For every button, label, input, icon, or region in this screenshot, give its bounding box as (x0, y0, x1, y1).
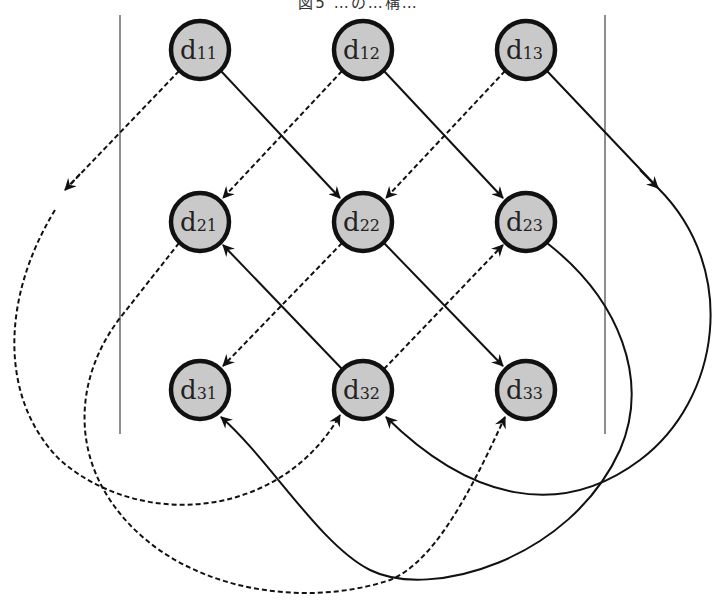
node-d22: d22 (334, 193, 392, 251)
node-d23: d23 (497, 193, 555, 251)
edge-d13-to-d32 (386, 71, 711, 495)
node-d13: d13 (497, 21, 555, 79)
edge-d23-to-d31 (221, 243, 632, 580)
edge-d32-to-d21 (223, 245, 342, 369)
edge-d11-to-d22 (221, 71, 340, 198)
edge-d21-to-d33 (85, 243, 505, 593)
network-diagram: d11d12d13d21d22d23d31d32d33 (0, 0, 717, 610)
node-d21: d21 (171, 193, 229, 251)
node-d31: d31 (171, 361, 229, 419)
node-d33: d33 (497, 361, 555, 419)
node-d32: d32 (334, 361, 392, 419)
edge-group (14, 71, 710, 593)
edge-d13-to-d22 (386, 71, 505, 198)
edge-d12-to-d21 (223, 71, 342, 198)
arrow-icon (640, 170, 658, 188)
arrow-icon (65, 174, 80, 190)
edge-d22-to-d31 (223, 243, 342, 366)
edge-d22-to-d33 (384, 243, 503, 366)
edge-d12-to-d23 (384, 71, 503, 198)
edge-d32-to-d23 (384, 245, 503, 369)
edge-d11-to-d32 (14, 71, 340, 505)
node-d11: d11 (171, 21, 229, 79)
node-d12: d12 (334, 21, 392, 79)
